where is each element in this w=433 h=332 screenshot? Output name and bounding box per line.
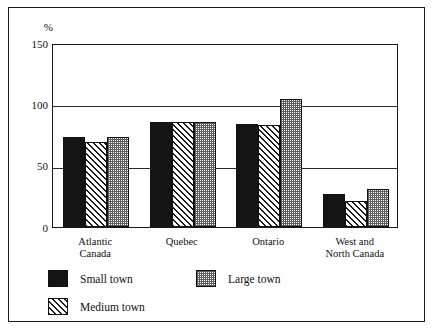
- bar: [280, 99, 302, 227]
- legend-label: Small town: [80, 273, 133, 285]
- legend-item: Medium town: [48, 298, 145, 315]
- legend-item: Small town: [48, 270, 133, 287]
- bar: [63, 137, 85, 227]
- bar: [258, 125, 280, 227]
- bar: [345, 201, 367, 227]
- legend-swatch: [48, 270, 68, 287]
- bar: [236, 124, 258, 227]
- legend-swatch: [196, 270, 216, 287]
- legend-item: Large town: [196, 270, 280, 287]
- bar: [85, 142, 107, 227]
- bar: [323, 194, 345, 227]
- legend-label: Medium town: [80, 301, 145, 313]
- legend-label: Large town: [228, 273, 280, 285]
- figure-container: % 050100150 Atlantic CanadaQuebecOntario…: [0, 0, 433, 332]
- bar: [194, 122, 216, 227]
- bar: [172, 122, 194, 227]
- bar: [150, 122, 172, 227]
- bar: [107, 137, 129, 227]
- legend-swatch: [48, 298, 68, 315]
- bar: [367, 189, 389, 227]
